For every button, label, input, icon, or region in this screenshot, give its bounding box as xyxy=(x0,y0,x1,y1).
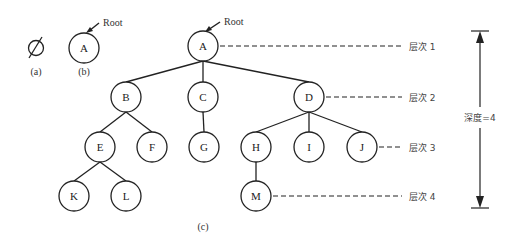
node-D: D xyxy=(294,82,324,112)
node-G: G xyxy=(189,132,219,162)
node-A: A xyxy=(188,31,218,61)
svg-text:L: L xyxy=(123,190,130,202)
svg-text:J: J xyxy=(360,141,365,153)
svg-text:K: K xyxy=(70,190,78,202)
root-pointer-b xyxy=(86,23,99,33)
node-B: B xyxy=(111,82,141,112)
tree-edges xyxy=(74,61,362,181)
svg-text:G: G xyxy=(200,141,208,153)
node-a-b-label: A xyxy=(80,42,88,54)
tree-diagram: (a) Root A (b) Root A B C D E F G H I J … xyxy=(0,0,528,242)
level-1-label: 层次 1 xyxy=(409,41,436,52)
level-3-label: 层次 3 xyxy=(409,142,436,153)
svg-text:B: B xyxy=(122,91,129,103)
root-label-b: Root xyxy=(103,17,123,28)
caption-a: (a) xyxy=(30,66,41,78)
svg-text:F: F xyxy=(149,141,155,153)
depth-label: 深度=4 xyxy=(464,112,496,123)
node-C: C xyxy=(188,82,218,112)
empty-tree-symbol xyxy=(29,37,44,58)
svg-text:M: M xyxy=(251,190,261,202)
node-H: H xyxy=(241,132,271,162)
node-J: J xyxy=(347,132,377,162)
node-K: K xyxy=(59,181,89,211)
node-F: F xyxy=(137,132,167,162)
level-4-label: 层次 4 xyxy=(409,191,436,202)
node-M: M xyxy=(241,181,271,211)
svg-text:E: E xyxy=(97,141,104,153)
node-I: I xyxy=(294,132,324,162)
svg-text:D: D xyxy=(305,91,313,103)
root-pointer-c xyxy=(205,22,220,32)
caption-b: (b) xyxy=(78,66,90,78)
svg-text:H: H xyxy=(252,141,260,153)
level-2-label: 层次 2 xyxy=(409,92,436,103)
node-L: L xyxy=(111,181,141,211)
svg-text:A: A xyxy=(199,40,207,52)
caption-c: (c) xyxy=(197,221,208,233)
root-label-c: Root xyxy=(224,16,244,27)
svg-text:C: C xyxy=(199,91,206,103)
node-E: E xyxy=(85,132,115,162)
svg-text:I: I xyxy=(307,141,311,153)
